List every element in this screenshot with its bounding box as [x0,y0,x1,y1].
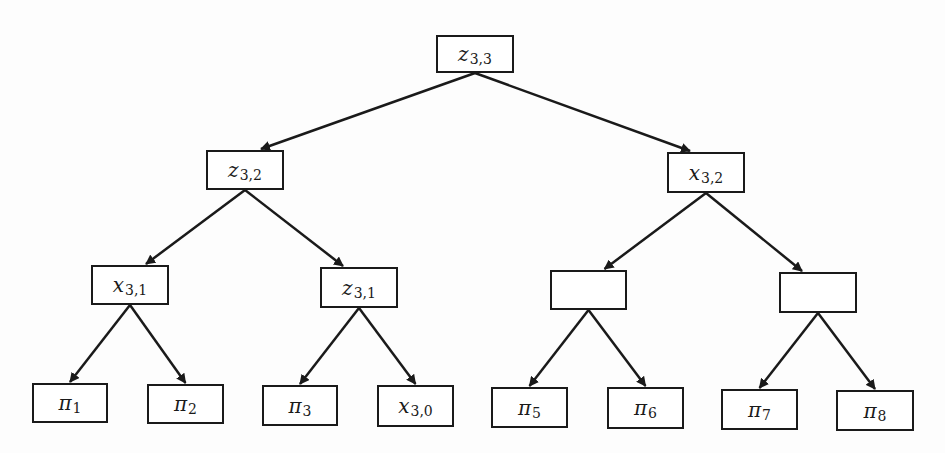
node-subscript: 3,3 [470,51,492,67]
edge-arrow [300,308,359,384]
leaf-7: π7 [721,389,798,430]
edge-arrow [261,73,475,149]
node-label: π [748,398,761,422]
leaf-5: π5 [491,387,568,428]
edge-arrow [359,308,416,384]
node-subscript: 3,2 [240,167,262,183]
node-label: x [689,161,700,185]
leaf-2: π2 [147,384,224,424]
leaf-4: x3,0 [377,385,454,427]
edge-arrow [146,190,245,264]
node-subscript: 3,2 [701,170,723,186]
node-label: π [288,394,301,418]
node-subscript: 8 [878,408,887,424]
node-label: π [518,396,531,420]
edge-arrow [589,310,646,386]
node-label: π [634,396,647,420]
node-subscript: 7 [762,407,771,423]
node-label: z [342,276,353,300]
node-subscript: 5 [532,405,541,421]
node-label: x [113,273,124,297]
node-subscript: 3 [303,403,312,419]
node-subscript: 6 [648,405,657,421]
leaf-6: π6 [607,387,684,429]
leaf-1: π1 [32,383,108,423]
node-rr-level2-empty [779,272,857,313]
node-label: x [398,394,409,418]
node-lr-level2: z3,1 [320,267,398,308]
edge-arrow [475,73,690,151]
edge-arrow [605,193,707,269]
edge-arrow [130,305,186,383]
node-subscript: 1 [73,400,82,416]
node-subscript: 3,1 [125,282,147,298]
node-ll-level2: x3,1 [91,265,169,305]
node-label: z [228,158,239,182]
node-root: z3,3 [436,35,514,73]
node-subscript: 2 [188,401,197,417]
node-rl-level2-empty [550,270,627,310]
edge-arrow [706,193,802,271]
node-label: π [174,392,187,416]
node-subscript: 3,0 [411,403,433,419]
leaf-3: π3 [262,385,338,426]
node-label: z [458,42,469,66]
edge-arrow [760,313,819,388]
edge-arrow [530,310,589,386]
node-label: π [863,399,876,423]
node-right-level1: x3,2 [667,152,745,193]
node-subscript: 3,1 [354,285,376,301]
edge-arrow [818,313,875,389]
edge-arrow [70,305,130,382]
leaf-8: π8 [836,390,914,431]
node-left-level1: z3,2 [206,150,284,190]
edge-arrow [245,190,343,266]
tree-diagram: z3,3 z3,2 x3,2 x3,1 z3,1 π1 π2 π3 x3,0 π… [0,0,945,453]
node-label: π [58,391,71,415]
